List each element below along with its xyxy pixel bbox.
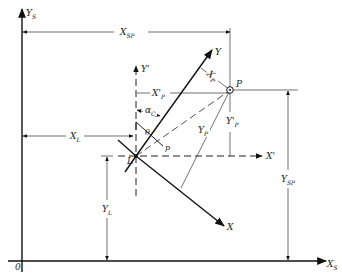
l-to-p-line [136,91,229,156]
point-l-label: L [126,156,133,166]
coordinate-transform-diagram: YS XS 0 XSP YSP XL YL Y' X' X'P Y'P Y X … [0,0,342,279]
yp-dimension [181,90,230,188]
x-axis [136,156,224,226]
y-axis-label: Y [215,47,222,57]
xs-axis-label: XS [326,259,338,271]
point-l-marker [134,154,138,158]
ys-axis-label: YS [26,8,36,20]
p-small-label: p [165,143,170,152]
x-axis-back [118,140,136,156]
point-p-label: P [235,79,243,89]
origin-label: 0 [15,262,21,272]
x-axis-label: X [226,222,234,232]
y-prime-label: Y' [141,64,149,74]
x-prime-label: X' [265,151,275,161]
theta-label: θ [145,128,150,137]
